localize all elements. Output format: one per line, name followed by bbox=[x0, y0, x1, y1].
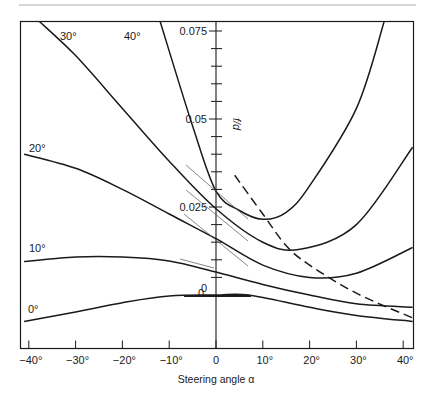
chart: 0.0750.050.0250f/d−40°−30°−20°−10°010°20… bbox=[0, 0, 430, 394]
x-tick-label: −30° bbox=[66, 354, 89, 366]
x-tick-label: 40° bbox=[397, 354, 414, 366]
y-axis-label: f/d bbox=[231, 118, 243, 131]
x-tick-label: −10° bbox=[160, 354, 183, 366]
curve-10deg bbox=[24, 256, 413, 307]
curve-label: 30° bbox=[60, 30, 77, 42]
x-tick-label: 0 bbox=[213, 354, 219, 366]
curve-label: 40° bbox=[124, 30, 141, 42]
x-tick-label: −40° bbox=[19, 354, 42, 366]
curve-label: 10° bbox=[29, 242, 46, 254]
x-tick-label: 10° bbox=[256, 354, 273, 366]
x-tick-label: −20° bbox=[113, 354, 136, 366]
curve-label: 20° bbox=[29, 142, 46, 154]
x-axis-label: Steering angle α bbox=[178, 373, 255, 385]
tangent-line bbox=[186, 190, 248, 241]
y-tick-label: 0.025 bbox=[179, 201, 207, 213]
curve-30deg bbox=[38, 20, 412, 250]
y-tick-label: 0.075 bbox=[179, 25, 207, 37]
x-tick-label: 20° bbox=[303, 354, 320, 366]
curve-0deg bbox=[24, 294, 413, 321]
plot-frame bbox=[21, 22, 414, 349]
axes: 0.0750.050.0250f/d−40°−30°−20°−10°010°20… bbox=[19, 22, 413, 386]
zero-annotation: 0 bbox=[201, 282, 207, 294]
x-tick-label: 30° bbox=[350, 354, 367, 366]
curves bbox=[24, 20, 413, 321]
curve-label: 0° bbox=[28, 303, 39, 315]
